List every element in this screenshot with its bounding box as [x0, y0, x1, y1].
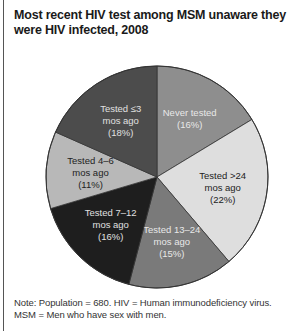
chart-note: Note: Population = 680. HIV = Human immu… [14, 297, 302, 321]
note-line-1: Note: Population = 680. HIV = Human immu… [14, 297, 302, 309]
note-line-2: MSM = Men who have sex with men. [14, 309, 302, 321]
pie-chart: Never tested(16%)Tested >24mos ago(22%)T… [0, 0, 306, 331]
